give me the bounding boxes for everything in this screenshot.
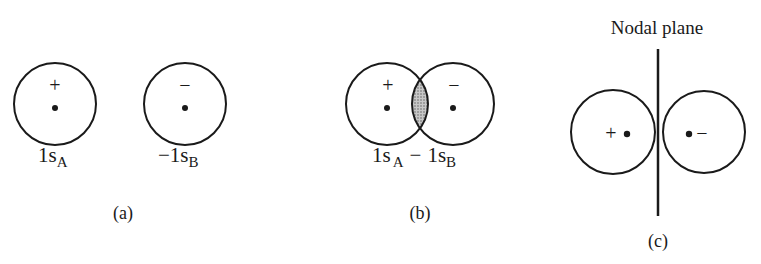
sign-plus: + xyxy=(605,122,616,144)
molecular-orbital-diagram: + − 1sA −1sB (a) + − 1sA−1sB (b) Nodal p… xyxy=(0,0,761,264)
caption-b: (b) xyxy=(410,203,431,224)
nucleus-A-dot xyxy=(384,105,390,111)
label-1sA: 1sA xyxy=(38,143,68,170)
panel-a: + − 1sA −1sB (a) xyxy=(14,63,226,224)
nucleus-B-dot xyxy=(450,105,456,111)
label-1sA-minus-1sB: 1sA−1sB xyxy=(372,143,456,170)
caption-c: (c) xyxy=(648,231,668,252)
sign-plus: + xyxy=(49,74,60,96)
sign-minus: − xyxy=(696,122,707,144)
nucleus-A-dot xyxy=(52,105,58,111)
label-minus-1sB: −1sB xyxy=(158,143,199,170)
nucleus-left-dot xyxy=(624,131,630,137)
caption-a: (a) xyxy=(113,203,133,224)
nodal-plane-label: Nodal plane xyxy=(611,17,703,38)
nucleus-right-dot xyxy=(686,131,692,137)
panel-b: + − 1sA−1sB (b) xyxy=(346,63,494,224)
sign-minus: − xyxy=(448,74,459,96)
sign-minus: − xyxy=(179,74,190,96)
panel-c: Nodal plane + − (c) xyxy=(571,17,745,252)
nucleus-B-dot xyxy=(182,105,188,111)
sign-plus: + xyxy=(382,74,393,96)
